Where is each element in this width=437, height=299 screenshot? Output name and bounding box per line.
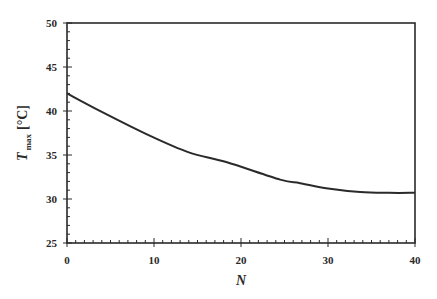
y-tick-label: 45 — [46, 61, 58, 73]
y-axis-title: Tmax[°C] — [15, 105, 33, 161]
y-tick-label: 25 — [46, 237, 58, 249]
tick-labels: 010203040253035404550 — [46, 17, 421, 266]
y-axis-title-main: T — [15, 151, 30, 161]
ticks — [63, 23, 415, 247]
x-tick-label: 10 — [149, 254, 161, 266]
svg-text:Tmax[°C]: Tmax[°C] — [15, 105, 33, 161]
x-tick-label: 30 — [323, 254, 335, 266]
x-tick-label: 40 — [410, 254, 422, 266]
y-tick-label: 30 — [46, 193, 58, 205]
y-axis-title-unit: [°C] — [15, 105, 30, 130]
x-axis-title: N — [235, 273, 247, 288]
y-tick-label: 40 — [46, 105, 58, 117]
series-line-tmax — [67, 93, 415, 193]
y-axis-title-sub: max — [23, 133, 33, 150]
series — [67, 93, 415, 193]
chart: 010203040253035404550 N Tmax[°C] — [0, 0, 437, 299]
x-tick-label: 20 — [236, 254, 248, 266]
plot-frame — [67, 23, 415, 243]
y-tick-label: 35 — [46, 149, 58, 161]
y-tick-label: 50 — [46, 17, 58, 29]
x-tick-label: 0 — [64, 254, 70, 266]
